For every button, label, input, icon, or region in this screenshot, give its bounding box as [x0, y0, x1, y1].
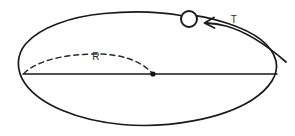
center-point-dot [150, 71, 155, 76]
radius-label: R [92, 51, 100, 62]
orbit-diagram-svg: R T [0, 0, 295, 136]
radius-dashed-arc [24, 54, 152, 74]
period-label: T [231, 14, 237, 25]
orbiting-body-circle [181, 11, 197, 27]
orbit-diagram-canvas: R T [0, 0, 295, 136]
